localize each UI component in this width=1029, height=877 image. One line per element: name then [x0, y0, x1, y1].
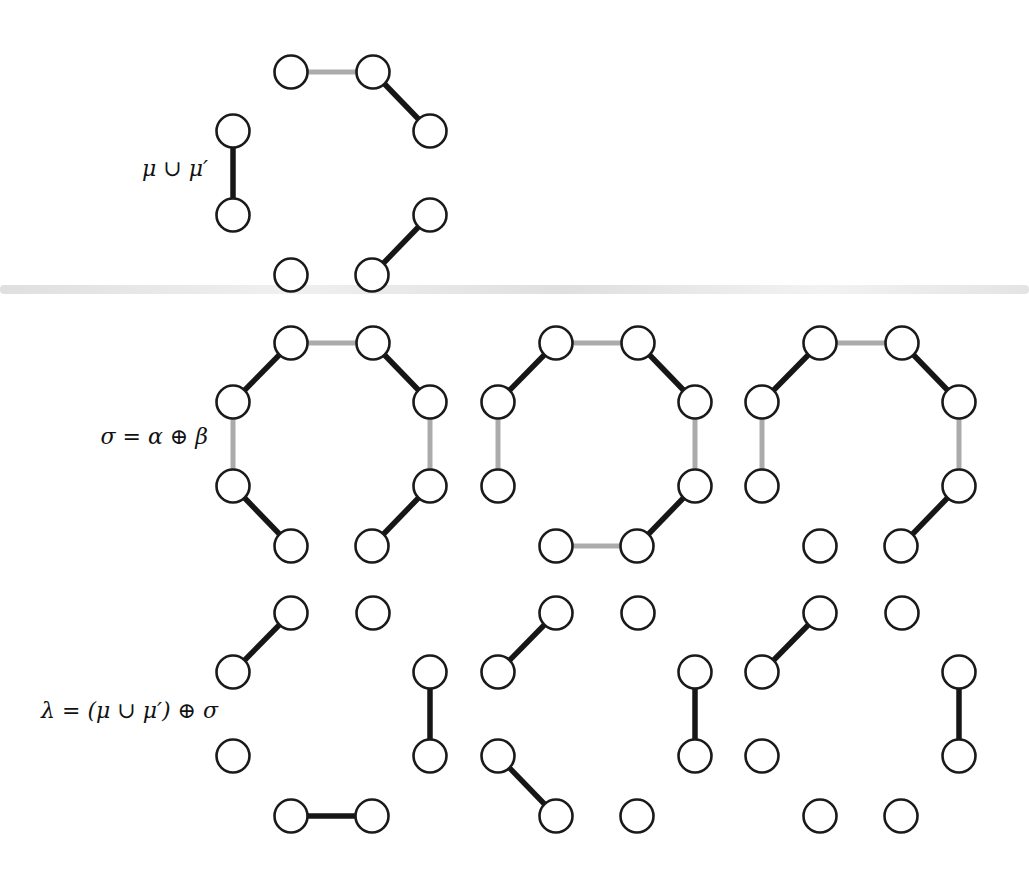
node-lb [482, 740, 515, 773]
scanned-figure-page: μ ∪ μ′ σ = α ⊕ β λ = (μ ∪ μ′) ⊕ σ [0, 0, 1029, 877]
node-lt [217, 115, 250, 148]
node-br [621, 530, 654, 563]
node-rb [414, 740, 447, 773]
node-br [885, 800, 918, 833]
node-tr [357, 327, 390, 360]
node-rb [679, 470, 712, 503]
node-bl [275, 259, 308, 292]
node-rb [943, 470, 976, 503]
node-lt [217, 656, 250, 689]
node-tr [622, 327, 655, 360]
node-lb [746, 740, 779, 773]
node-br [356, 259, 389, 292]
node-rb [414, 470, 447, 503]
node-br [356, 530, 389, 563]
node-br [621, 800, 654, 833]
node-bl [540, 530, 573, 563]
node-tl [275, 597, 308, 630]
node-rt [679, 656, 712, 689]
node-tl [804, 327, 837, 360]
node-rt [414, 386, 447, 419]
diagram-sigma-variant-2 [479, 324, 714, 565]
node-lt [746, 386, 779, 419]
node-rb [943, 740, 976, 773]
node-rb [414, 199, 447, 232]
node-rt [414, 115, 447, 148]
node-lt [482, 386, 515, 419]
node-rb [679, 740, 712, 773]
node-tl [275, 327, 308, 360]
node-tl [275, 56, 308, 89]
node-lb [217, 470, 250, 503]
node-tr [886, 597, 919, 630]
node-bl [275, 800, 308, 833]
node-bl [804, 800, 837, 833]
label-lambda-equals-mu-union-oplus-sigma: λ = (μ ∪ μ′) ⊕ σ [41, 698, 218, 723]
node-rt [943, 656, 976, 689]
diagram-lambda-variant-3 [743, 594, 978, 835]
node-rt [679, 386, 712, 419]
diagram-sigma-variant-1 [214, 324, 449, 565]
node-rt [414, 656, 447, 689]
label-mu-union-mu-prime: μ ∪ μ′ [142, 156, 208, 181]
diagram-lambda-variant-1 [214, 594, 449, 835]
node-tl [540, 327, 573, 360]
node-lb [482, 470, 515, 503]
label-sigma-equals-alpha-oplus-beta: σ = α ⊕ β [101, 424, 208, 449]
node-bl [540, 800, 573, 833]
node-bl [275, 530, 308, 563]
scan-artifact-band [0, 285, 1029, 294]
diagram-mu-union-mu-prime [214, 53, 449, 294]
diagram-sigma-variant-3 [743, 324, 978, 565]
node-br [356, 800, 389, 833]
node-bl [804, 530, 837, 563]
node-tr [622, 597, 655, 630]
node-tl [804, 597, 837, 630]
node-lt [746, 656, 779, 689]
node-lb [217, 740, 250, 773]
node-tr [357, 597, 390, 630]
node-tr [886, 327, 919, 360]
node-lb [217, 199, 250, 232]
node-br [885, 530, 918, 563]
node-rt [943, 386, 976, 419]
node-lt [217, 386, 250, 419]
node-tr [357, 56, 390, 89]
node-tl [540, 597, 573, 630]
diagram-lambda-variant-2 [479, 594, 714, 835]
node-lb [746, 470, 779, 503]
node-lt [482, 656, 515, 689]
